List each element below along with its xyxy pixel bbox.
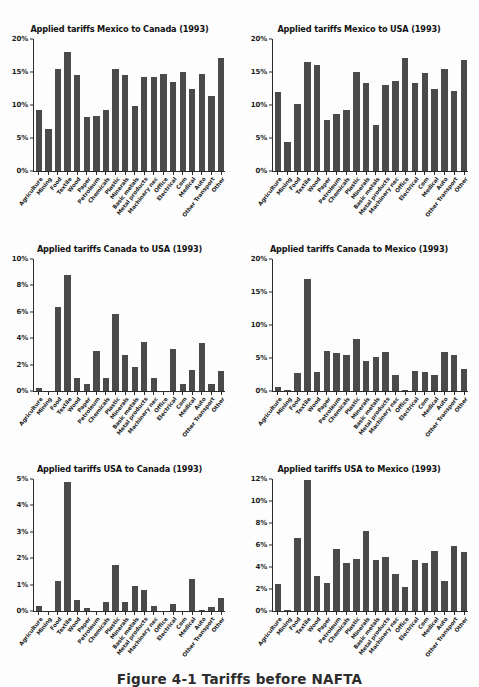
chart-title: Applied tariffs Mexico to USA (1993) (239, 24, 479, 34)
bar (189, 579, 195, 611)
bar-slot (459, 479, 469, 611)
bar-slot (188, 39, 198, 171)
bar-slot (283, 259, 293, 391)
bar (324, 351, 330, 391)
y-tick-label: 8% (17, 281, 28, 289)
bar-slot (44, 259, 54, 391)
bar-slot (312, 479, 322, 611)
y-tick-label: 20% (251, 255, 267, 263)
x-axis-labels: AgricultureMiningFoodTextileWoodPaperPet… (34, 615, 226, 663)
bar (160, 74, 166, 171)
bar-slot (197, 39, 207, 171)
bar (64, 275, 70, 391)
bar (353, 339, 359, 391)
x-label-slot: Other (459, 615, 469, 663)
bar (324, 583, 330, 611)
x-axis-labels: AgricultureMiningFoodTextileWoodPaperPet… (273, 615, 469, 663)
bar (84, 384, 90, 391)
bar (208, 607, 214, 611)
bar (343, 110, 349, 171)
x-axis-labels: AgricultureMiningFoodTextileWoodPaperPet… (34, 395, 226, 443)
bar (93, 116, 99, 171)
bar-slot (82, 479, 92, 611)
bar (461, 369, 467, 391)
bars-container (273, 479, 469, 611)
y-tick-label: 0% (256, 607, 267, 615)
chart-title: Applied tariffs Canada to USA (1993) (0, 244, 239, 254)
bar-slot (34, 479, 44, 611)
bar (199, 610, 205, 611)
bar-slot (168, 479, 178, 611)
bar-slot (34, 39, 44, 171)
bar-slot (371, 39, 381, 171)
bar-slot (111, 259, 121, 391)
bar-slot (159, 479, 169, 611)
y-tick-label: 2% (17, 554, 28, 562)
bar (382, 352, 388, 391)
bar-slot (216, 479, 226, 611)
bar (304, 279, 310, 391)
bars-container (273, 259, 469, 391)
y-tick-label: 10% (251, 101, 267, 109)
y-tick-label: 2% (17, 361, 28, 369)
x-label-slot: Other (216, 395, 226, 443)
bar (451, 355, 457, 391)
bar-slot (302, 259, 312, 391)
bar (431, 375, 437, 391)
bar-slot (400, 259, 410, 391)
y-tick-label: 12% (251, 475, 267, 483)
y-tick-label: 6% (256, 541, 267, 549)
bar (170, 349, 176, 391)
bar (36, 388, 42, 391)
bar-slot (322, 479, 332, 611)
bar (402, 587, 408, 611)
bar (103, 110, 109, 171)
bar (333, 353, 339, 391)
bar-slot (293, 259, 303, 391)
bar (275, 387, 281, 391)
bar-slot (361, 479, 371, 611)
bar-slot (293, 39, 303, 171)
bar-slot (101, 39, 111, 171)
y-tick-label: 4% (17, 334, 28, 342)
bar (304, 62, 310, 171)
bar-slot (197, 259, 207, 391)
bar-slot (130, 259, 140, 391)
bar-slot (101, 259, 111, 391)
bar (64, 52, 70, 171)
y-axis: 0%5%10%15%20% (239, 39, 272, 171)
y-tick-label: 10% (251, 497, 267, 505)
bar (304, 480, 310, 611)
bar-slot (273, 479, 283, 611)
x-label-slot: Agriculture (273, 175, 283, 223)
bar-slot (400, 39, 410, 171)
bar (314, 576, 320, 611)
bar-slot (120, 479, 130, 611)
bar-slot (63, 479, 73, 611)
y-tick-label: 2% (256, 585, 267, 593)
bar (132, 367, 138, 391)
bar-slot (72, 479, 82, 611)
bar-slot (410, 479, 420, 611)
bar-slot (449, 259, 459, 391)
bar-slot (302, 39, 312, 171)
bar (333, 114, 339, 171)
bar-slot (140, 479, 150, 611)
bar (103, 602, 109, 611)
x-label-slot: Other (459, 395, 469, 443)
bar-slot (420, 39, 430, 171)
bar-slot (53, 479, 63, 611)
bar (373, 560, 379, 611)
bar-slot (430, 259, 440, 391)
bar (180, 384, 186, 391)
x-label-slot: Food (53, 615, 63, 663)
bar-slot (207, 479, 217, 611)
y-tick-label: 15% (12, 68, 28, 76)
bar (132, 586, 138, 611)
bar-slot (391, 479, 401, 611)
bar (141, 77, 147, 171)
bar-slot (342, 259, 352, 391)
x-label-slot: Chemicals (101, 615, 111, 663)
x-label-slot: Food (53, 175, 63, 223)
